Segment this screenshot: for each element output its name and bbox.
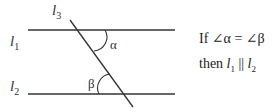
angle-beta-label: β [88, 76, 95, 92]
label-l3: l3 [52, 2, 61, 21]
label-l2: l2 [10, 78, 19, 97]
statement-if: If ∠α = ∠β [199, 30, 265, 47]
angle-alpha-label: α [110, 37, 117, 53]
angle-beta-arc [98, 74, 110, 94]
label-l1: l1 [10, 33, 19, 52]
angle-alpha-arc [94, 30, 107, 51]
statement-then: then l1 || l2 [199, 56, 256, 74]
